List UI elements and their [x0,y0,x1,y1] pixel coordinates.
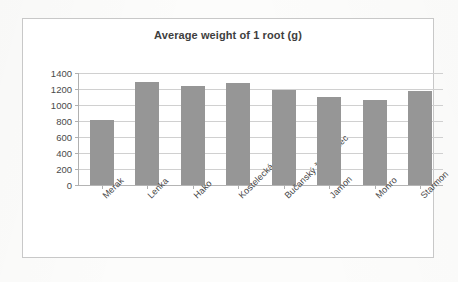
bar [408,91,432,185]
chart-title: Average weight of 1 root (g) [23,29,433,41]
bar-group: Kostelecká Barres [216,73,262,185]
bar-group: Bučanský žlutý válec [261,73,307,185]
x-axis-label: Monro [375,192,382,199]
x-axis-tick [193,185,194,189]
x-axis-tick [375,185,376,189]
x-axis-label: Jamon [329,192,336,199]
bar [181,86,205,185]
x-axis-label: Bučanský žlutý válec [284,192,291,199]
bar-group: Lenka [125,73,171,185]
x-axis-label: Lenka [147,192,154,199]
bar [317,97,341,185]
x-axis-tick [420,185,421,189]
x-axis-tick [238,185,239,189]
x-axis-tick [329,185,330,189]
x-axis-label: Hako [193,192,200,199]
x-axis-label: Merak [102,192,109,199]
plot-area: 1400120010008006004002000 MerakLenkaHako… [79,73,443,185]
x-axis-label: Starmon [420,192,427,199]
bar [135,82,159,185]
y-axis-label: 400 [56,148,72,159]
bar [226,83,250,185]
x-axis-label: Kostelecká Barres [238,192,245,199]
y-axis-label: 600 [56,132,72,143]
y-axis-label: 1400 [51,68,72,79]
y-axis-label: 1000 [51,100,72,111]
bar-series: MerakLenkaHakoKostelecká BarresBučanský … [79,73,443,185]
bar-group: Monro [352,73,398,185]
y-axis-label: 0 [67,180,72,191]
chart-frame: Average weight of 1 root (g) 14001200100… [22,18,434,258]
y-axis-label: 1200 [51,84,72,95]
bar-group: Hako [170,73,216,185]
chart-screenshot: Average weight of 1 root (g) 14001200100… [0,0,458,282]
bar-group: Jamon [307,73,353,185]
y-axis-label: 800 [56,116,72,127]
x-axis-tick [147,185,148,189]
bar [90,120,114,185]
bar-group: Starmon [398,73,444,185]
bar-group: Merak [79,73,125,185]
bar [363,100,387,185]
y-axis-tick [75,185,79,186]
x-axis-tick [284,185,285,189]
y-axis-label: 200 [56,164,72,175]
x-axis-tick [102,185,103,189]
bar [272,90,296,185]
